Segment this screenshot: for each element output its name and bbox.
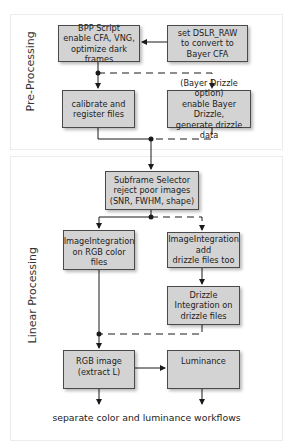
dashed-arrow-subframe-to-imageintegration-drizzle: [151, 217, 202, 230]
rgb-image-box: RGB image (extract L): [63, 350, 135, 389]
imageintegration-drizzle-box: ImageIntegration add drizzle files too: [167, 232, 240, 268]
dslr-raw-text: set DSLR_RAW to convert to Bayer CFA: [178, 28, 238, 60]
drizzle-integration-text: Drizzle Integration on drizzle files: [175, 290, 233, 322]
junction-dot-bpp: [96, 71, 101, 76]
calibrate-box: calibrate and register files: [62, 90, 135, 128]
arrow-subframe-to-imageintegration-rgb: [99, 210, 151, 228]
bpp-script-box: BPP Script enable CFA, VNG, optimize dar…: [58, 25, 140, 62]
connector-lines: [0, 0, 293, 448]
imageintegration-rgb-text: ImageIntegration on RGB color files: [64, 236, 135, 268]
junction-dot-subframe: [149, 215, 154, 220]
subframe-selector-text: Subframe Selector reject poor images (SN…: [110, 175, 195, 207]
line-calibrate-to-junction: [98, 128, 151, 139]
dashed-line-drizzle-integration-to-junction: [99, 325, 202, 334]
luminance-text: Luminance: [181, 356, 226, 367]
bpp-script-text: BPP Script enable CFA, VNG, optimize dar…: [61, 23, 137, 65]
caption: separate color and luminance workflows: [0, 412, 293, 423]
junction-dot-pre-merge: [149, 137, 154, 142]
dslr-raw-box: set DSLR_RAW to convert to Bayer CFA: [167, 25, 248, 62]
bayer-drizzle-box: (Bayer Drizzle option) enable Bayer Driz…: [167, 90, 251, 128]
drizzle-integration-box: Drizzle Integration on drizzle files: [167, 286, 240, 325]
imageintegration-rgb-box: ImageIntegration on RGB color files: [63, 230, 135, 270]
junction-dot-rgb-merge: [97, 332, 102, 337]
imageintegration-drizzle-text: ImageIntegration add drizzle files too: [168, 234, 239, 266]
rgb-image-text: RGB image (extract L): [76, 356, 122, 377]
bayer-drizzle-text: (Bayer Drizzle option) enable Bayer Driz…: [170, 78, 248, 141]
luminance-box: Luminance: [167, 350, 240, 389]
subframe-selector-box: Subframe Selector reject poor images (SN…: [105, 171, 199, 210]
calibrate-text: calibrate and register files: [72, 99, 126, 120]
